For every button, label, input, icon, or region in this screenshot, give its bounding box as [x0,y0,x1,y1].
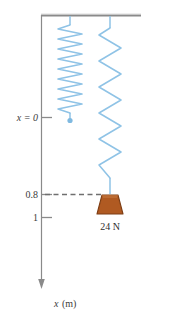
left-spring-end-dot [67,118,72,123]
right-spring-loaded [99,16,121,194]
left-spring-coils [58,25,82,113]
tick-label-one: 1 [33,212,38,223]
left-spring-unloaded [58,16,82,123]
tick-label-zero: x = 0 [16,112,38,123]
right-spring-coils [99,28,121,178]
support-ceiling [41,14,141,15]
axis-tick-labels: x = 0 0.8 1 [16,112,38,223]
tick-label-zero-point-eight: 0.8 [26,189,39,200]
diagram-canvas: x = 0 0.8 1 [0,0,172,322]
weight-block-highlight [102,195,118,198]
x-axis-title: x (m) [53,298,76,310]
x-axis-title-unit: (m) [62,298,76,310]
x-axis-arrowhead [38,279,45,289]
x-axis-title-symbol: x [53,298,59,309]
x-axis [38,15,45,289]
axis-ticks [42,118,53,218]
physics-diagram-figure: x = 0 0.8 1 [0,0,172,322]
weight-block-label: 24 N [100,221,120,232]
hanging-weight-block [97,195,123,214]
